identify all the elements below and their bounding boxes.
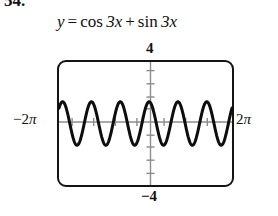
- graph-viewport: 4 −4 −2π 2π: [0, 0, 278, 216]
- x-max-pi: π: [244, 111, 252, 127]
- figure-container: 54. y=cos 3x+sin 3x: [0, 0, 278, 216]
- x-max-number: 2: [236, 111, 244, 127]
- y-max-label: 4: [146, 40, 154, 57]
- x-min-pi: π: [29, 111, 37, 127]
- x-min-label: −2π: [13, 111, 36, 128]
- function-curve: [59, 102, 232, 145]
- y-min-number: 4: [150, 188, 158, 204]
- x-max-label: 2π: [236, 111, 251, 128]
- y-min-label: −4: [141, 188, 157, 205]
- x-min-number: 2: [21, 111, 29, 127]
- graph-plot-area: [57, 60, 234, 187]
- y-min-sign: −: [141, 188, 150, 204]
